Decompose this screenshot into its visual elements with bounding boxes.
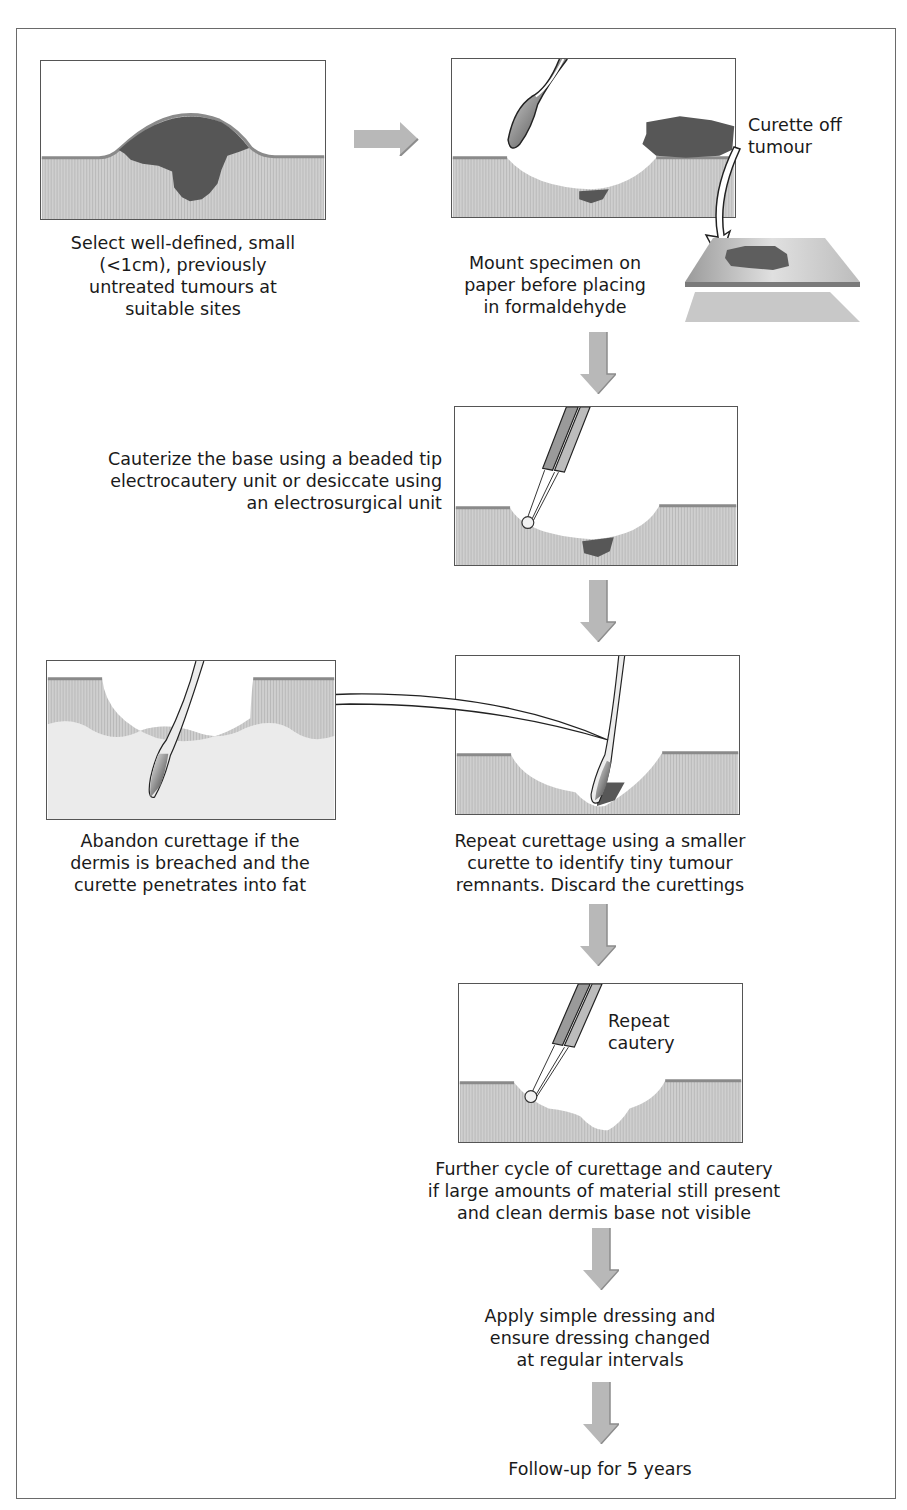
breached-dermis-illustration — [47, 661, 335, 819]
caption-follow-up: Follow-up for 5 years — [460, 1458, 740, 1480]
arrow-right-1 — [354, 122, 420, 156]
block-arrow-right-icon — [354, 122, 420, 156]
panel-cauterize — [454, 406, 738, 566]
arrow-down-4 — [583, 1228, 619, 1290]
electrocautery-illustration — [455, 407, 737, 565]
panel-abandon — [46, 660, 336, 820]
caption-further-cycle: Further cycle of curettage and cautery i… — [404, 1158, 804, 1224]
block-arrow-down-icon — [583, 1382, 619, 1444]
caption-cauterize: Cauterize the base using a beaded tip el… — [90, 448, 442, 514]
specimen-paper — [685, 238, 860, 328]
caption-select-tumour: Select well-defined, small (<1cm), previ… — [40, 232, 326, 320]
arrow-down-5 — [583, 1382, 619, 1444]
caption-mount-specimen: Mount specimen on paper before placing i… — [440, 252, 670, 318]
panel-select-tumour — [40, 60, 326, 220]
block-arrow-down-icon — [580, 904, 616, 966]
block-arrow-down-icon — [580, 332, 616, 394]
block-arrow-down-icon — [583, 1228, 619, 1290]
caption-dressing: Apply simple dressing and ensure dressin… — [460, 1305, 740, 1371]
block-arrow-down-icon — [580, 580, 616, 642]
arrow-down-3 — [580, 904, 616, 966]
caption-repeat-curettage: Repeat curettage using a smaller curette… — [440, 830, 760, 896]
arrow-down-2 — [580, 580, 616, 642]
specimen-on-paper-illustration — [685, 238, 860, 328]
caption-abandon: Abandon curettage if the dermis is breac… — [40, 830, 340, 896]
label-curette-off: Curette off tumour — [748, 114, 888, 158]
panel-repeat-cautery — [458, 983, 743, 1143]
arrow-down-1 — [580, 332, 616, 394]
label-repeat-cautery: Repeat cautery — [608, 1010, 728, 1054]
repeat-cautery-illustration — [459, 984, 742, 1142]
raised-tumour-illustration — [41, 61, 325, 219]
